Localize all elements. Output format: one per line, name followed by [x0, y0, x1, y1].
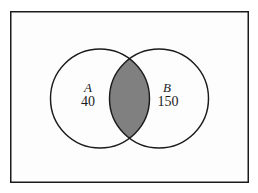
set-a-label: A — [83, 80, 92, 95]
venn-diagram-figure: A 40 B 150 — [0, 0, 258, 193]
set-a-count: 40 — [81, 94, 95, 109]
set-b-label: B — [163, 80, 171, 95]
venn-diagram-canvas: A 40 B 150 — [0, 0, 258, 193]
set-b-count: 150 — [158, 94, 179, 109]
